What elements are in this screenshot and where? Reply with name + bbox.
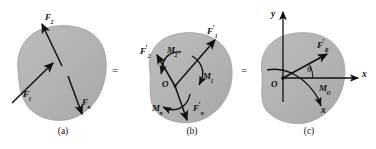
label-moment-m2: M2 xyxy=(167,46,178,57)
label-force-fn: Fn xyxy=(82,98,91,109)
label-axis-y: y xyxy=(271,10,275,20)
equals-sign-2: = xyxy=(241,64,247,76)
caption-panel-c: (c) xyxy=(289,126,329,136)
label-moment-m1: M1 xyxy=(203,72,214,83)
panel-a-body xyxy=(18,26,107,121)
caption-panel-a: (a) xyxy=(43,126,83,136)
label-resultant-moment: MO xyxy=(319,84,331,95)
label-force-f1: F1 xyxy=(23,90,32,101)
label-axis-x-lower: x xyxy=(321,106,326,116)
label-angle-theta: θ xyxy=(307,65,311,74)
label-resultant-force: F′R xyxy=(317,41,329,52)
equals-sign-1: = xyxy=(112,64,118,76)
label-force-f2-prime: F′2 xyxy=(140,47,151,58)
label-force-fn-prime: F′n xyxy=(193,104,204,115)
label-moment-mn: Mn xyxy=(152,104,163,115)
label-axis-x: x xyxy=(362,70,367,80)
label-origin-c: O xyxy=(271,80,278,89)
label-force-f2: F2 xyxy=(45,13,54,24)
label-origin-b: O xyxy=(162,80,169,89)
label-force-f1-prime: F′1 xyxy=(207,27,218,38)
force-reduction-figure: F2 F1 Fn (a) = F′1 F′2 F′n M2 M1 Mn O (b… xyxy=(0,0,376,149)
caption-panel-b: (b) xyxy=(172,126,212,136)
